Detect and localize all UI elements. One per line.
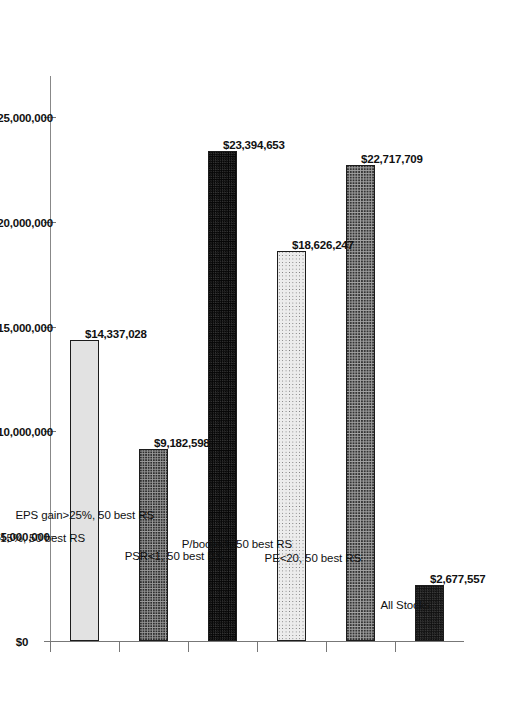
category-axis-tick	[326, 641, 327, 652]
category-axis-tick	[395, 641, 396, 652]
bar	[415, 584, 444, 640]
category-label: EPS gain>25%, 50 best RS	[15, 509, 154, 521]
category-label: PSR<1, 50 best RS	[124, 549, 222, 561]
bar-value-label: $23,394,653	[223, 138, 285, 150]
bar	[70, 340, 99, 641]
bar-value-label: $9,182,598	[154, 436, 210, 448]
bar-value-label: $18,626,247	[292, 238, 354, 250]
value-axis-tick-label: $10,000,000	[0, 426, 53, 438]
value-axis-tick-label: $0	[16, 636, 28, 648]
figure-page: $0$5,000,000$10,000,000$15,000,000$20,00…	[0, 0, 514, 715]
bar	[277, 250, 306, 640]
category-axis-tick	[50, 641, 51, 652]
category-label: PE<20, 50 best RS	[264, 551, 360, 563]
bar-value-label: $22,717,709	[361, 152, 423, 164]
figure-caption: Fig. 18-1. Results of $10,000 invested o…	[507, 709, 514, 715]
category-label: P/book<1, 50 best RS	[181, 537, 291, 549]
category-axis-tick	[257, 641, 258, 652]
category-axis-tick	[188, 641, 189, 652]
plot-area: $0$5,000,000$10,000,000$15,000,000$20,00…	[42, 38, 472, 678]
value-axis-tick-label: $25,000,000	[0, 111, 53, 123]
bar	[346, 164, 375, 640]
category-axis-tick	[119, 641, 120, 652]
value-axis-tick-label: $15,000,000	[0, 321, 53, 333]
category-label: All Stocks	[380, 598, 430, 610]
value-axis-tick-label: $20,000,000	[0, 216, 53, 228]
bar	[139, 448, 168, 640]
category-label: ROE>15%, 50 best RS	[0, 531, 85, 543]
bar	[208, 150, 237, 640]
value-axis-spine	[50, 76, 51, 642]
bar-chart: $0$5,000,000$10,000,000$15,000,000$20,00…	[42, 38, 472, 678]
bar-value-label: $2,677,557	[430, 572, 486, 584]
bar-value-label: $14,337,028	[85, 328, 147, 340]
